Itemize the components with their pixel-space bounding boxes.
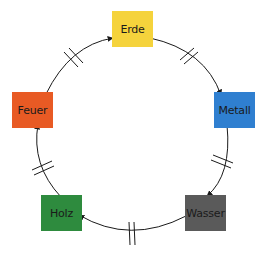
node-erde: Erde <box>112 11 153 47</box>
node-label: Wasser <box>186 207 224 220</box>
edge-erde-metall <box>150 38 221 95</box>
node-feuer: Feuer <box>12 92 53 128</box>
edge-feuer-erde <box>46 38 113 94</box>
node-label: Feuer <box>18 104 48 117</box>
double-tick-icon <box>32 161 54 175</box>
node-holz: Holz <box>41 195 82 231</box>
node-label: Erde <box>120 23 144 36</box>
node-wasser: Wasser <box>185 195 226 231</box>
node-metall: Metall <box>214 92 255 128</box>
node-label: Metall <box>218 104 250 117</box>
double-tick-icon <box>129 222 135 245</box>
edge-wasser-holz <box>79 215 186 245</box>
double-tick-icon <box>211 155 233 168</box>
edge-holz-feuer <box>32 124 61 197</box>
edge-metall-wasser <box>207 125 233 196</box>
node-label: Holz <box>50 207 73 220</box>
